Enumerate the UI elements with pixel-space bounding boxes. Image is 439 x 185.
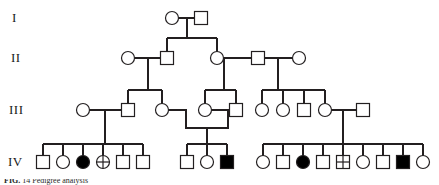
square-icon (195, 12, 208, 25)
pedigree-symbol-iv-2[interactable] (57, 156, 70, 169)
pedigree-symbol-iv-5[interactable] (117, 156, 130, 169)
square-icon (37, 156, 50, 169)
circle-icon (166, 12, 179, 25)
pedigree-symbol-iii-3[interactable] (156, 104, 169, 117)
circle-icon (156, 104, 169, 117)
pedigree-symbol-iv-16[interactable] (377, 156, 390, 169)
filled-square-icon (221, 156, 234, 169)
caption-figure-number: FIG. (4, 179, 20, 185)
circle-icon (319, 104, 332, 117)
square-icon (161, 52, 174, 65)
pedigree-symbol-iv-15[interactable] (357, 156, 370, 169)
square-icon (357, 104, 370, 117)
filled-square-icon (397, 156, 410, 169)
pedigree-symbol-iv-9[interactable] (221, 156, 234, 169)
pedigree-symbol-iv-8[interactable] (201, 156, 214, 169)
square-icon (137, 156, 150, 169)
square-icon (230, 104, 243, 117)
pedigree-symbol-iii-2[interactable] (122, 104, 135, 117)
pedigree-symbol-iv-10[interactable] (257, 156, 270, 169)
pedigree-symbol-iv-3[interactable] (77, 156, 90, 169)
figure-caption: FIG. 14 Pedigree analysis (0, 179, 439, 185)
caption-text: 14 Pedigree analysis (22, 179, 88, 185)
pedigree-symbol-i-1[interactable] (166, 12, 179, 25)
pedigree-symbol-iv-17[interactable] (397, 156, 410, 169)
circle-icon (77, 104, 90, 117)
square-icon (117, 156, 130, 169)
connector-lines (43, 18, 423, 156)
square-icon (252, 52, 265, 65)
pedigree-diagram (0, 0, 439, 185)
pedigree-symbol-ii-1[interactable] (122, 52, 135, 65)
circle-icon (417, 156, 430, 169)
square-icon (317, 156, 330, 169)
square-icon (277, 156, 290, 169)
pedigree-figure: I II III IV FIG. 14 Pedigree analysis (0, 0, 439, 185)
pedigree-symbol-iv-4[interactable] (97, 156, 110, 169)
square-icon (377, 156, 390, 169)
pedigree-symbol-i-2[interactable] (195, 12, 208, 25)
pedigree-symbol-ii-4[interactable] (252, 52, 265, 65)
pedigree-symbol-iii-10[interactable] (357, 104, 370, 117)
circle-icon (199, 104, 212, 117)
square-icon (181, 156, 194, 169)
pedigree-symbol-iii-4[interactable] (199, 104, 212, 117)
generation-label-iv: IV (8, 155, 23, 168)
pedigree-symbol-iii-9[interactable] (319, 104, 332, 117)
pedigree-symbol-ii-5[interactable] (293, 52, 306, 65)
pedigree-symbol-iv-13[interactable] (317, 156, 330, 169)
generation-label-ii: II (11, 51, 21, 64)
pedigree-symbol-iv-12[interactable] (297, 156, 310, 169)
circle-icon (293, 52, 306, 65)
generation-label-iii: III (9, 103, 24, 116)
pedigree-symbol-iv-6[interactable] (137, 156, 150, 169)
pedigree-symbol-iii-7[interactable] (277, 104, 290, 117)
pedigree-symbol-ii-2[interactable] (161, 52, 174, 65)
pedigree-symbol-iii-5[interactable] (230, 104, 243, 117)
pedigree-symbol-iii-6[interactable] (256, 104, 269, 117)
generation-label-i: I (12, 11, 17, 24)
filled-circle-icon (297, 156, 310, 169)
pedigree-symbol-iv-14[interactable] (337, 156, 350, 169)
circle-icon (122, 52, 135, 65)
circle-icon (57, 156, 70, 169)
circle-icon (357, 156, 370, 169)
pedigree-symbol-iv-11[interactable] (277, 156, 290, 169)
pedigree-symbol-iii-1[interactable] (77, 104, 90, 117)
circle-icon (257, 156, 270, 169)
circle-icon (256, 104, 269, 117)
pedigree-symbol-iv-18[interactable] (417, 156, 430, 169)
square-icon (298, 104, 311, 117)
pedigree-symbol-iii-8[interactable] (298, 104, 311, 117)
pedigree-symbol-iv-7[interactable] (181, 156, 194, 169)
circle-icon (277, 104, 290, 117)
circle-icon (201, 156, 214, 169)
square-icon (122, 104, 135, 117)
pedigree-symbol-ii-3[interactable] (211, 52, 224, 65)
circle-icon (211, 52, 224, 65)
filled-circle-icon (77, 156, 90, 169)
pedigree-symbol-iv-1[interactable] (37, 156, 50, 169)
